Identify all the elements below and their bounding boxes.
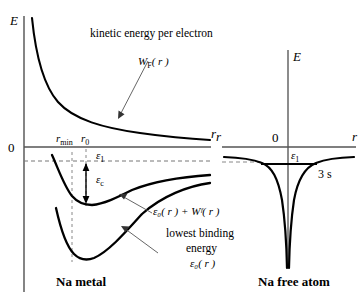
panel-na-metal — [24, 16, 211, 292]
orbital-3s-label: 3 s — [318, 168, 332, 180]
epsilon-c-sub: c — [100, 179, 104, 188]
diagram-canvas — [0, 0, 364, 301]
tick-label-r-zero: r0 — [81, 133, 89, 147]
panel-na-free-atom — [222, 50, 356, 268]
epsilon-1-label-right: ε1 — [291, 150, 299, 164]
caption-na-metal: Na metal — [56, 275, 106, 288]
binding-energy-leader — [121, 226, 158, 253]
caption-na-free-atom: Na free atom — [258, 275, 330, 288]
sum-energy-curve — [52, 155, 210, 205]
tick-label-r-min: rmin — [56, 133, 73, 147]
sum-curve-label: ε₀( r ) + Wᶠ( r ) — [153, 206, 219, 217]
tick-r-zero-sub: 0 — [85, 138, 89, 147]
right-y-axis-label: E — [293, 50, 301, 63]
wf-formula-label: WF( r ) — [138, 56, 169, 70]
epsilon-1-sub-left: 1 — [100, 155, 104, 164]
coulomb-well-left-branch — [224, 157, 287, 268]
lowest-binding-line-2: energy — [186, 243, 217, 255]
right-origin-label: 0 — [272, 131, 279, 144]
left-y-axis-label: E — [10, 14, 18, 27]
kinetic-energy-annotation: kinetic energy per electron — [90, 28, 213, 40]
epsilon-c-label: εc — [96, 174, 104, 188]
lowest-binding-line-1: lowest binding — [166, 228, 234, 240]
wf-main: W — [138, 55, 147, 67]
epsilon-c-arrow — [83, 163, 90, 204]
sum-curve-leader — [119, 194, 152, 213]
left-origin-label: 0 — [8, 141, 15, 154]
wf-arg: ( r ) — [152, 55, 169, 67]
epsilon-1-sub-right: 1 — [295, 155, 299, 164]
right-x-axis-label-left: r — [216, 130, 221, 143]
epsilon-1-label-left: ε1 — [96, 150, 104, 164]
tick-r-min-sub: min — [60, 138, 72, 147]
right-x-axis-label-right: r — [352, 130, 357, 143]
physics-energy-diagram: E r 0 rmin r0 kinetic energy per electro… — [0, 0, 364, 301]
lowest-binding-line-3: ε₀( r ) — [190, 258, 215, 269]
